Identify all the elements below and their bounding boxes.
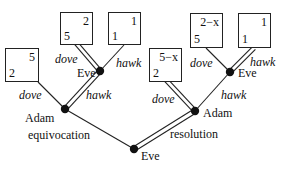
payoff-bottom: 5: [194, 32, 200, 47]
node-left-eve: [96, 67, 104, 75]
label-left-eve-dove: dove: [55, 53, 78, 65]
game-tree-diagram: 5 2 2 5 1 1 5−x 2 2−x 5 1 1 dove hawk do…: [0, 0, 293, 169]
payoff-box-left-eve-hawk: 1 1: [108, 12, 141, 45]
label-left-eve-hawk: hawk: [116, 57, 141, 69]
payoff-top: 5: [29, 50, 35, 65]
player-label-root-eve: Eve: [141, 150, 160, 162]
payoff-top: 2−x: [200, 15, 219, 30]
node-root-eve: [130, 145, 138, 153]
player-label-right-adam: Adam: [203, 107, 232, 119]
label-left-adam-dove: dove: [19, 89, 42, 101]
label-equivocation: equivocation: [28, 129, 90, 141]
payoff-box-right-adam-dove: 5−x 2: [149, 48, 182, 82]
label-resolution: resolution: [170, 128, 218, 140]
player-label-left-eve: Eve: [77, 67, 96, 79]
payoff-box-left-adam-dove: 5 2: [5, 48, 39, 82]
edge-left-adam-dove: [38, 82, 65, 109]
payoff-bottom: 2: [153, 66, 159, 81]
payoff-top: 1: [261, 15, 267, 30]
payoff-top: 1: [131, 14, 137, 29]
node-left-adam: [61, 105, 69, 113]
payoff-bottom: 1: [242, 32, 248, 47]
payoff-top: 2: [83, 14, 89, 29]
label-right-adam-dove: dove: [152, 93, 175, 105]
payoff-bottom: 1: [112, 29, 118, 44]
payoff-box-right-eve-hawk: 1 1: [238, 13, 271, 48]
player-label-right-eve: Eve: [238, 67, 257, 79]
node-right-eve: [226, 68, 234, 76]
payoff-box-left-eve-dove: 2 5: [60, 12, 93, 45]
payoff-bottom: 2: [9, 66, 15, 81]
player-label-left-adam: Adam: [25, 112, 54, 124]
payoff-top: 5−x: [159, 50, 178, 65]
node-right-adam: [191, 107, 199, 115]
label-right-eve-dove: dove: [190, 57, 213, 69]
payoff-box-right-eve-dove: 2−x 5: [190, 13, 223, 48]
payoff-bottom: 5: [64, 29, 70, 44]
label-left-adam-hawk: hawk: [86, 89, 111, 101]
label-right-adam-hawk: hawk: [221, 89, 246, 101]
